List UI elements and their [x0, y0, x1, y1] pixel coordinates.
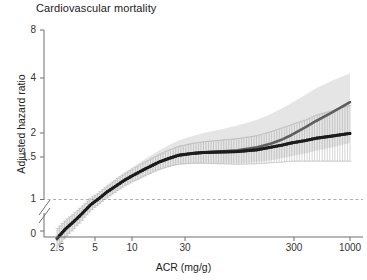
chart-figure: Cardiovascular mortality Adjusted hazard…	[0, 0, 367, 280]
chart-plot-area	[0, 0, 367, 280]
